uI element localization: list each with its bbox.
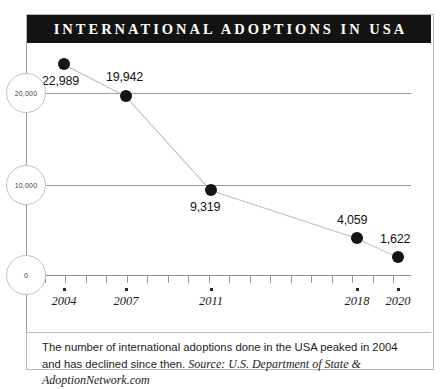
page-title: INTERNATIONAL ADOPTIONS IN USA xyxy=(27,15,431,43)
caption-divider xyxy=(27,332,431,333)
chart-frame xyxy=(26,14,434,370)
title-banner: INTERNATIONAL ADOPTIONS IN USA xyxy=(27,15,431,43)
caption: The number of international adoptions do… xyxy=(42,339,418,389)
